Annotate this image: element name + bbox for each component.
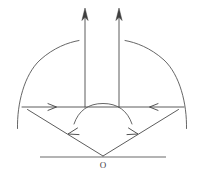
- right-ray-group: [103, 110, 179, 157]
- large-wavefront-arc-group: [17, 41, 186, 129]
- left-ray-shaft: [28, 110, 104, 157]
- diagram-svg: O: [0, 0, 204, 173]
- left-vertical-arrow-group: [82, 8, 88, 107]
- right-vertical-arrow-group: [116, 8, 122, 107]
- horizontal-chord-line-group: [22, 104, 184, 111]
- right-ray-arrow-head-icon: [127, 128, 138, 135]
- diagram-canvas: O: [0, 0, 204, 173]
- right-ray-shaft: [103, 110, 179, 157]
- large-wavefront-arc-left: [17, 41, 79, 129]
- left-ray-group: [28, 110, 104, 157]
- large-wavefront-arc-right: [125, 41, 187, 129]
- left-ray-arrow-head-icon: [68, 128, 79, 135]
- origin-point-label: O: [100, 160, 107, 170]
